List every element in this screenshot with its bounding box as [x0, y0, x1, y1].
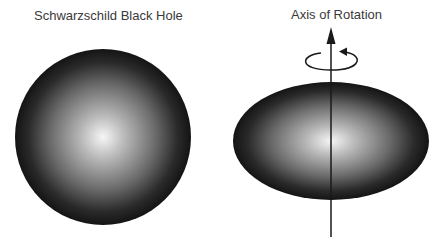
schwarzschild-sphere — [15, 49, 191, 225]
axis-arrowhead-icon — [327, 27, 336, 44]
black-hole-diagram — [0, 0, 443, 244]
